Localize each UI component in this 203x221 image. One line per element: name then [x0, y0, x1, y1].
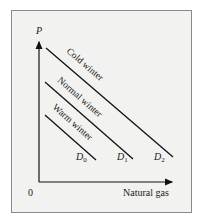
demand-curve-d2-cold: [46, 48, 173, 157]
d2-label: D2: [153, 151, 165, 164]
demand-curve-d1-normal: [45, 82, 133, 159]
y-axis-label: P: [35, 25, 42, 36]
d0-label: D0: [75, 151, 87, 164]
x-axis-label: Natural gas: [123, 187, 169, 198]
demand-diagram: P 0 Natural gas Cold winter Normal winte…: [0, 0, 203, 221]
cold-winter-label: Cold winter: [65, 46, 106, 84]
origin-label: 0: [28, 187, 33, 198]
